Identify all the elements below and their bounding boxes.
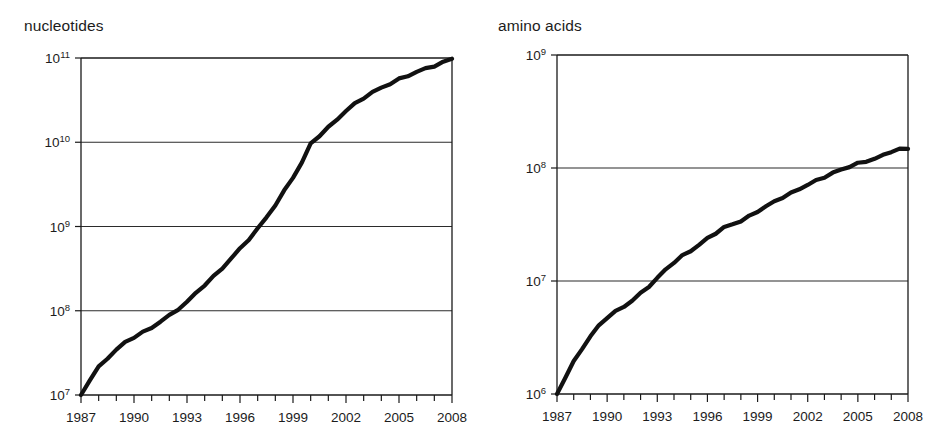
y-tick-label: 107 [50, 386, 70, 403]
x-tick-label: 2008 [437, 410, 467, 425]
panel-amino-acids: amino acids 1091081071061987199019931996… [470, 0, 941, 447]
chart-amino-acids: 1091081071061987199019931996199920022005… [470, 0, 941, 447]
x-tick-label: 2005 [384, 410, 414, 425]
x-tick-label: 1990 [592, 409, 622, 424]
x-tick-label: 1987 [542, 409, 572, 424]
y-tick-label: 109 [50, 218, 70, 235]
y-tick-label: 1010 [44, 133, 70, 150]
panel-nucleotides: nucleotides 1011101010910810719871990199… [0, 0, 470, 447]
x-tick-label: 2005 [843, 409, 873, 424]
x-tick-label: 1999 [743, 409, 773, 424]
x-tick-label: 1990 [119, 410, 149, 425]
y-tick-label: 108 [526, 159, 546, 176]
y-tick-label: 107 [526, 272, 546, 289]
x-tick-label: 1999 [278, 410, 308, 425]
y-tick-label: 108 [50, 302, 70, 319]
x-tick-label: 2002 [793, 409, 823, 424]
y-tick-label: 1011 [45, 49, 70, 66]
x-tick-label: 1987 [66, 410, 96, 425]
x-tick-label: 1996 [692, 409, 722, 424]
chart-nucleotides: 1011101010910810719871990199319961999200… [0, 0, 470, 447]
x-tick-label: 1996 [225, 410, 255, 425]
x-tick-label: 2008 [893, 409, 923, 424]
x-tick-label: 1993 [642, 409, 672, 424]
data-curve [557, 149, 908, 394]
x-tick-label: 2002 [331, 410, 361, 425]
x-tick-label: 1993 [172, 410, 202, 425]
y-tick-label: 109 [526, 46, 546, 63]
y-tick-label: 106 [526, 385, 546, 402]
